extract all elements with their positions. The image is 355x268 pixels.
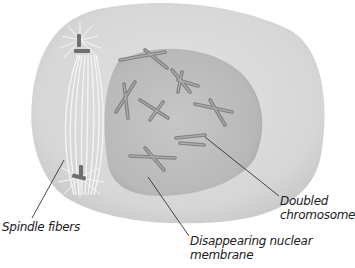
label-doubled-chromosome: Doubled chromosome [280, 194, 355, 222]
label-nuclear-membrane: Disappearing nuclear membrane [190, 234, 312, 262]
label-spindle-fibers: Spindle fibers [2, 220, 80, 234]
